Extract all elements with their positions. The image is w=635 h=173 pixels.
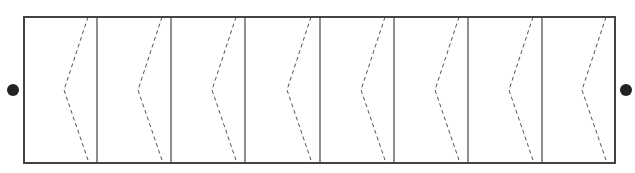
dashed-chevron-line: [509, 17, 534, 163]
left-terminal-dot: [7, 84, 19, 96]
right-terminal-dot: [620, 84, 632, 96]
dashed-chevrons: [64, 17, 607, 163]
panel-strip-diagram: [0, 0, 635, 173]
dashed-chevron-line: [212, 17, 237, 163]
dashed-chevron-line: [361, 17, 386, 163]
dashed-chevron-line: [138, 17, 163, 163]
panel-dividers: [97, 17, 542, 163]
dashed-chevron-line: [582, 17, 607, 163]
dashed-chevron-line: [287, 17, 312, 163]
dashed-chevron-line: [64, 17, 89, 163]
dashed-chevron-line: [435, 17, 460, 163]
